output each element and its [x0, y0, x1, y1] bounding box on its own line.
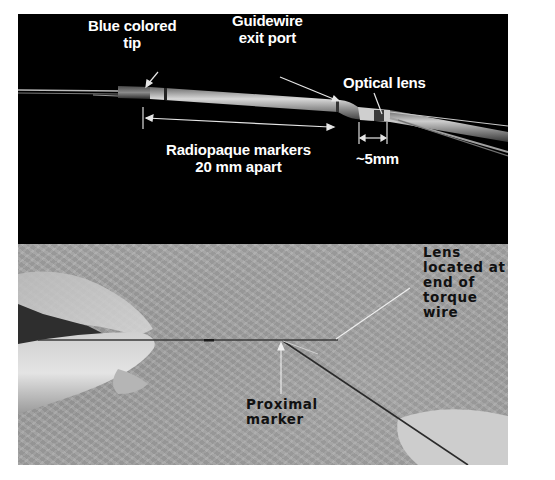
top-photo-panel: Blue colored tip Guidewire exit port Opt… — [18, 14, 508, 244]
label-line: ~5mm — [356, 151, 399, 168]
label-line: marker — [246, 412, 318, 427]
label-5mm-distance: ~5mm — [356, 151, 399, 168]
label-line: Blue colored — [88, 18, 176, 35]
bottom-photo-panel: Lens located at end of torque wire Proxi… — [18, 244, 508, 465]
annotation-lines — [278, 288, 410, 394]
label-line: tip — [88, 35, 176, 52]
label-line: Lens — [423, 245, 506, 260]
catheter-figure: Blue colored tip Guidewire exit port Opt… — [18, 14, 508, 465]
label-optical-lens: Optical lens — [343, 75, 426, 92]
label-line: torque — [423, 290, 506, 305]
label-lens-location: Lens located at end of torque wire — [423, 245, 506, 321]
label-line: end of — [423, 275, 506, 290]
label-line: Radiopaque markers — [166, 142, 311, 159]
label-blue-colored-tip: Blue colored tip — [88, 18, 176, 52]
label-line: Guidewire — [232, 14, 303, 30]
label-line: exit port — [232, 30, 303, 47]
label-radiopaque-markers: Radiopaque markers 20 mm apart — [166, 142, 311, 176]
label-line: Optical lens — [343, 75, 426, 92]
label-line: wire — [423, 305, 506, 320]
label-line: located at — [423, 260, 506, 275]
label-proximal-marker: Proximal marker — [246, 397, 318, 427]
label-guidewire-exit-port: Guidewire exit port — [232, 14, 303, 47]
label-line: Proximal — [246, 397, 318, 412]
label-line: 20 mm apart — [166, 159, 311, 176]
